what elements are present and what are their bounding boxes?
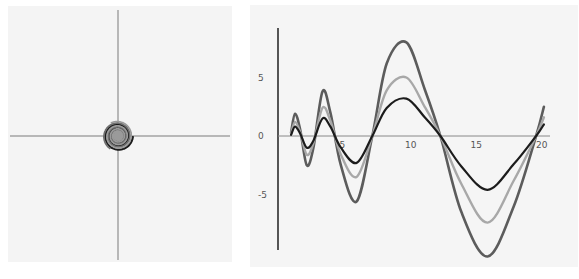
line-chart-panel: 50-5 5101520 (250, 5, 578, 267)
spiral-curves (104, 122, 133, 150)
x-tick-label: 10 (405, 140, 417, 150)
y-tick-label: 0 (258, 131, 264, 141)
y-tick-label: -5 (258, 190, 267, 200)
spiral-plot (8, 6, 232, 262)
x-tick-label: 20 (536, 140, 548, 150)
line-series (291, 41, 544, 256)
series-middle (291, 77, 544, 223)
y-tick-labels: 50-5 (258, 73, 267, 200)
series-outer (291, 41, 544, 256)
line-chart: 50-5 5101520 (250, 5, 578, 267)
y-tick-label: 5 (258, 73, 264, 83)
x-tick-label: 15 (471, 140, 482, 150)
spiral-plot-panel (8, 6, 232, 262)
